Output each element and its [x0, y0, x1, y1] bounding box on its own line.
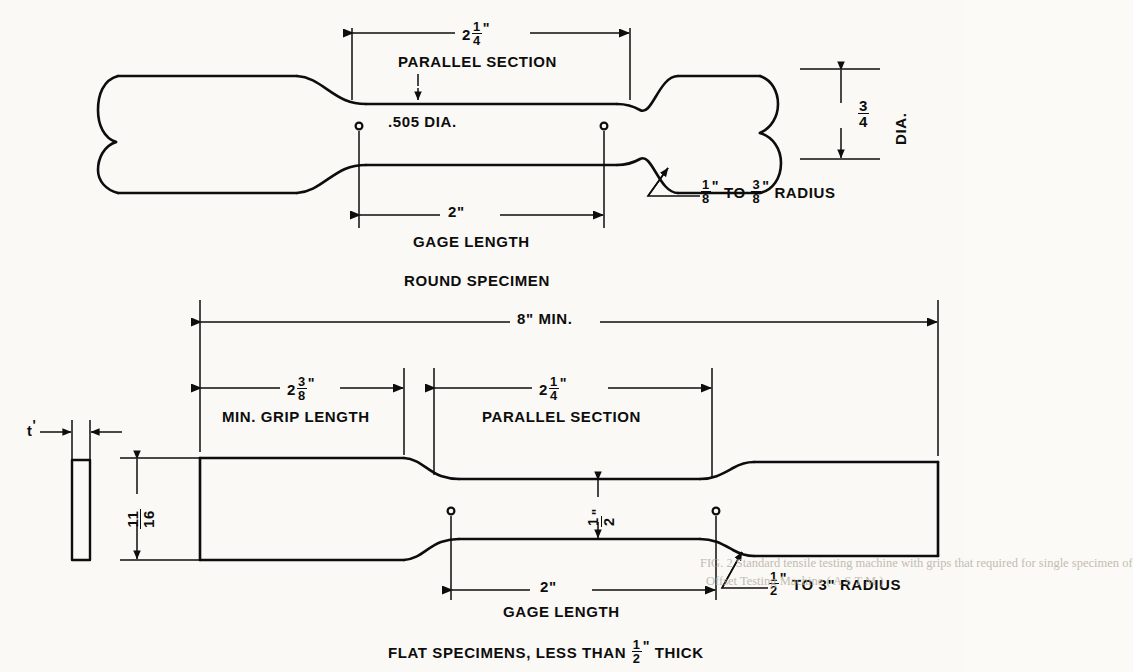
- flat-grip-length-value: 238": [287, 375, 315, 402]
- round-gage-length-label: GAGE LENGTH: [413, 233, 530, 250]
- flat-specimen-caption: FLAT SPECIMENS, LESS THAN 12" THICK: [388, 638, 704, 665]
- round-diameter-label: .505 DIA.: [388, 113, 457, 130]
- flat-overall-length-value: 8" MIN.: [517, 310, 572, 327]
- round-specimen-caption: ROUND SPECIMEN: [404, 272, 550, 289]
- flat-parallel-section-label: PARALLEL SECTION: [482, 408, 641, 425]
- flat-gage-length-label: GAGE LENGTH: [503, 603, 620, 620]
- round-grip-diameter-value: 34: [857, 98, 870, 130]
- flat-grip-width-value: 1116: [125, 508, 157, 530]
- flat-thickness-label: t': [27, 418, 36, 439]
- flat-specimen-outline: [72, 458, 938, 560]
- round-grip-diameter-label: DIA.: [892, 113, 909, 145]
- round-specimen-outline: [98, 76, 781, 193]
- flat-reduced-width-value: 12": [586, 508, 617, 528]
- round-parallel-section-value: 214": [462, 20, 490, 47]
- bleedthrough-line-2: Offset Testing Machine ( A S T M ): [706, 574, 883, 589]
- flat-grip-length-label: MIN. GRIP LENGTH: [222, 408, 370, 425]
- flat-parallel-section-value: 214": [539, 375, 567, 402]
- bleedthrough-line-1: FIG. 2 Standard tensile testing machine …: [700, 556, 1133, 571]
- round-fillet-radius-label: 18" TO 38" RADIUS: [700, 178, 836, 205]
- round-gage-length-value: 2": [448, 203, 465, 220]
- round-parallel-section-label: PARALLEL SECTION: [398, 53, 557, 70]
- flat-gage-length-value: 2": [540, 578, 557, 595]
